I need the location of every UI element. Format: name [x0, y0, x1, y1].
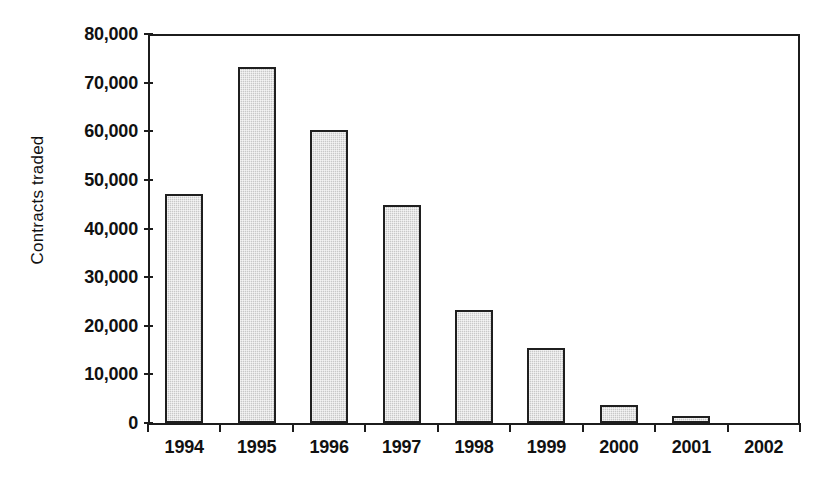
- y-tick: [144, 130, 153, 132]
- bar-2000: [600, 405, 638, 423]
- x-tick: [799, 423, 801, 432]
- bar-1998: [455, 310, 493, 423]
- y-tick-label-50000: 50,000: [52, 169, 138, 190]
- y-tick: [144, 82, 153, 84]
- x-tick: [292, 423, 294, 432]
- y-tick: [144, 276, 153, 278]
- y-tick-label-0: 0: [52, 413, 138, 434]
- x-tick-label-2000: 2000: [599, 437, 638, 458]
- x-tick-label-1995: 1995: [237, 437, 276, 458]
- y-tick-label-20000: 20,000: [52, 315, 138, 336]
- bar-2001: [672, 416, 710, 423]
- y-axis-title: Contracts traded: [28, 100, 48, 300]
- y-tick: [144, 422, 153, 424]
- bar-1999: [527, 348, 565, 423]
- x-tick: [727, 423, 729, 432]
- y-tick-label-40000: 40,000: [52, 218, 138, 239]
- x-tick-label-2001: 2001: [672, 437, 711, 458]
- y-tick: [144, 179, 153, 181]
- x-tick-label-1997: 1997: [382, 437, 421, 458]
- x-tick-label-1994: 1994: [165, 437, 204, 458]
- x-tick: [582, 423, 584, 432]
- y-tick-label-80000: 80,000: [52, 24, 138, 45]
- x-tick: [654, 423, 656, 432]
- x-tick: [509, 423, 511, 432]
- plot-frame-top: [148, 34, 800, 36]
- x-tick: [147, 423, 149, 432]
- x-axis-line: [148, 423, 800, 425]
- plot-area: [148, 34, 800, 425]
- x-tick: [437, 423, 439, 432]
- y-tick: [144, 325, 153, 327]
- bar-1994: [165, 194, 203, 423]
- bar-1997: [383, 205, 421, 423]
- bar-1995: [238, 67, 276, 423]
- bar-chart: 010,00020,00030,00040,00050,00060,00070,…: [0, 0, 831, 483]
- y-tick: [144, 33, 153, 35]
- y-tick-label-70000: 70,000: [52, 72, 138, 93]
- x-tick-label-1998: 1998: [454, 437, 493, 458]
- bar-1996: [310, 130, 348, 423]
- x-tick: [219, 423, 221, 432]
- y-tick-label-10000: 10,000: [52, 364, 138, 385]
- y-tick: [144, 228, 153, 230]
- x-tick: [364, 423, 366, 432]
- x-tick-label-1999: 1999: [527, 437, 566, 458]
- x-tick-label-2002: 2002: [744, 437, 783, 458]
- plot-frame-right: [798, 34, 800, 425]
- y-tick: [144, 373, 153, 375]
- y-tick-label-60000: 60,000: [52, 121, 138, 142]
- y-axis-line: [148, 34, 150, 425]
- y-tick-label-30000: 30,000: [52, 267, 138, 288]
- x-tick-label-1996: 1996: [309, 437, 348, 458]
